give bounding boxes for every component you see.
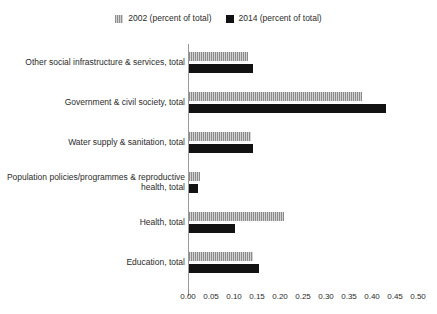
x-axis-tick-0.45: 0.45	[387, 292, 403, 302]
x-axis-tick-0.40: 0.40	[364, 292, 380, 302]
x-axis-tick-0.25: 0.25	[295, 292, 311, 302]
y-axis-label-other-social-infrastructure: Other social infrastructure & services, …	[3, 57, 185, 67]
bar-2002-water-supply-sanitation	[189, 132, 251, 141]
y-axis-label-water-supply-sanitation: Water supply & sanitation, total	[3, 137, 185, 147]
legend-swatch-hatched-gray-square	[115, 15, 123, 23]
x-axis-tick-0.35: 0.35	[341, 292, 357, 302]
y-axis-label-population-policies: Population policies/programmes & reprodu…	[3, 172, 185, 192]
legend-swatch-solid-black-square	[226, 15, 234, 23]
legend-label-2002: 2002 (percent of total)	[128, 14, 211, 23]
bar-2014-health	[189, 224, 235, 233]
y-axis-labels: Other social infrastructure & services, …	[0, 44, 185, 290]
x-axis-tick-0.20: 0.20	[272, 292, 288, 302]
x-axis-tick-0.10: 0.10	[226, 292, 242, 302]
bar-2002-health	[189, 212, 284, 221]
chart-legend: 2002 (percent of total) 2014 (percent of…	[0, 14, 437, 23]
legend-item-2002: 2002 (percent of total)	[115, 14, 211, 23]
y-axis-label-government-civil-society: Government & civil society, total	[3, 97, 185, 107]
x-axis-tick-0.50: 0.50	[410, 292, 426, 302]
plot-area	[188, 44, 418, 290]
x-axis-tick-0.05: 0.05	[203, 292, 219, 302]
bar-2014-government-civil-society	[189, 104, 386, 113]
x-axis-tick-0.15: 0.15	[249, 292, 265, 302]
bar-2002-government-civil-society	[189, 92, 362, 101]
y-axis-label-education: Education, total	[3, 257, 185, 267]
x-axis-tick-0.30: 0.30	[318, 292, 334, 302]
bar-2014-population-policies	[189, 184, 198, 193]
bar-2002-population-policies	[189, 172, 200, 181]
x-axis-tick-0.00: 0.00	[180, 292, 196, 302]
bar-2002-education	[189, 252, 253, 261]
bar-chart: 2002 (percent of total) 2014 (percent of…	[0, 0, 437, 314]
bar-2014-education	[189, 264, 259, 273]
x-axis: 0.000.050.100.150.200.250.300.350.400.45…	[188, 292, 418, 308]
legend-label-2014: 2014 (percent of total)	[239, 14, 322, 23]
y-axis-label-health: Health, total	[3, 217, 185, 227]
bar-2014-other-social-infrastructure	[189, 64, 253, 73]
bar-2002-other-social-infrastructure	[189, 52, 248, 61]
bar-2014-water-supply-sanitation	[189, 144, 253, 153]
legend-item-2014: 2014 (percent of total)	[226, 14, 322, 23]
